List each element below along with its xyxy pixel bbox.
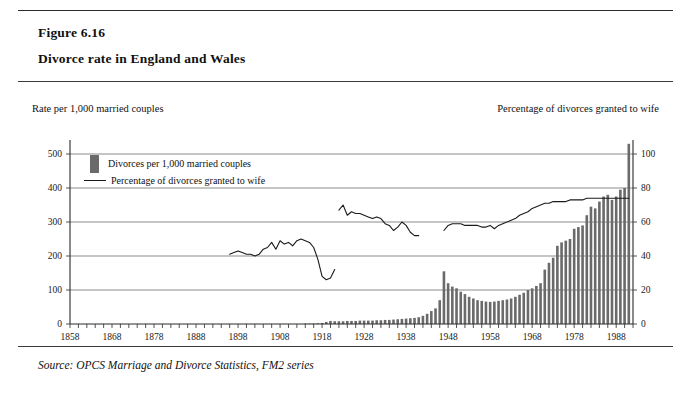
bar-series <box>304 144 630 324</box>
svg-text:1878: 1878 <box>145 332 164 342</box>
figure-card: Figure 6.16 Divorce rate in England and … <box>18 10 673 391</box>
chart-svg: 0100200300400500 020406080100 1858186818… <box>18 121 673 346</box>
source-note: Source: OPCS Marriage and Divorce Statis… <box>38 359 314 371</box>
svg-text:100: 100 <box>48 285 63 295</box>
x-axis-tick-labels: 1858186818781888189819081918192819381948… <box>61 332 626 342</box>
svg-text:20: 20 <box>641 285 651 295</box>
svg-text:1888: 1888 <box>187 332 206 342</box>
svg-text:1938: 1938 <box>397 332 416 342</box>
svg-text:1908: 1908 <box>271 332 290 342</box>
left-axis-caption: Rate per 1,000 married couples <box>32 103 164 114</box>
left-axis-tick-labels: 0100200300400500 <box>48 149 63 329</box>
right-axis-caption: Percentage of divorces granted to wife <box>497 103 659 114</box>
svg-text:200: 200 <box>48 251 63 261</box>
svg-text:40: 40 <box>641 251 651 261</box>
legend-item-bars: Divorces per 1,000 married couples <box>90 156 265 171</box>
legend-item-line: Percentage of divorces granted to wife <box>90 173 265 188</box>
chart-plot-area: 0100200300400500 020406080100 1858186818… <box>18 121 673 346</box>
svg-text:1928: 1928 <box>355 332 374 342</box>
legend-line-swatch-icon <box>84 180 106 181</box>
divider-under-title <box>18 81 673 82</box>
svg-text:1968: 1968 <box>523 332 542 342</box>
svg-text:60: 60 <box>641 217 651 227</box>
svg-text:1988: 1988 <box>607 332 626 342</box>
svg-text:1868: 1868 <box>103 332 122 342</box>
svg-text:1948: 1948 <box>439 332 458 342</box>
svg-text:1858: 1858 <box>61 332 80 342</box>
legend-bar-label: Divorces per 1,000 married couples <box>108 158 251 169</box>
svg-text:100: 100 <box>641 149 656 159</box>
legend-bar-swatch-icon <box>90 155 99 173</box>
legend-line-label: Percentage of divorces granted to wife <box>111 175 265 186</box>
figure-number: Figure 6.16 <box>38 25 105 41</box>
svg-text:1918: 1918 <box>313 332 332 342</box>
svg-text:80: 80 <box>641 183 651 193</box>
svg-text:1958: 1958 <box>481 332 500 342</box>
divider-above-source <box>18 346 673 347</box>
svg-text:500: 500 <box>48 149 63 159</box>
svg-text:400: 400 <box>48 183 63 193</box>
figure-title: Divorce rate in England and Wales <box>38 51 246 67</box>
chart-legend: Divorces per 1,000 married couples Perce… <box>90 156 265 188</box>
svg-text:0: 0 <box>641 319 646 329</box>
svg-text:1978: 1978 <box>565 332 584 342</box>
svg-text:300: 300 <box>48 217 63 227</box>
right-axis-tick-labels: 020406080100 <box>641 149 656 329</box>
svg-text:1898: 1898 <box>229 332 248 342</box>
svg-text:0: 0 <box>57 319 62 329</box>
